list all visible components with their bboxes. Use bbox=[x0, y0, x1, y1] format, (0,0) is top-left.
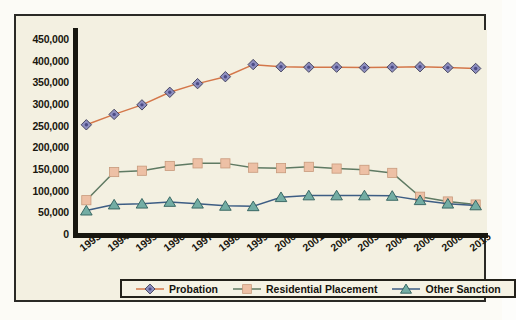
chart-canvas: 450,000400,000350,000300,000250,000200,0… bbox=[16, 16, 484, 300]
triangle-marker bbox=[391, 282, 421, 296]
legend-label: Other Sanction bbox=[425, 283, 500, 295]
chart-frame: 450,000400,000350,000300,000250,000200,0… bbox=[14, 14, 486, 302]
data-point-square bbox=[360, 165, 369, 174]
square-marker bbox=[243, 284, 252, 293]
data-point-square bbox=[249, 163, 258, 172]
legend-label: Probation bbox=[169, 283, 218, 295]
legend-item-probation[interactable]: Probation bbox=[135, 282, 218, 296]
data-point-square bbox=[276, 164, 285, 173]
data-point-square bbox=[110, 167, 119, 176]
diamond-marker bbox=[135, 282, 165, 296]
series-probation bbox=[81, 59, 481, 130]
square-marker bbox=[232, 282, 262, 296]
series-plot bbox=[16, 16, 488, 304]
data-point-square bbox=[221, 159, 230, 168]
data-point-square bbox=[304, 162, 313, 171]
data-point-square bbox=[388, 168, 397, 177]
legend-item-residential-placement[interactable]: Residential Placement bbox=[232, 282, 377, 296]
data-point-square bbox=[82, 196, 91, 205]
data-point-square bbox=[332, 164, 341, 173]
data-point-square bbox=[137, 166, 146, 175]
chart-legend: ProbationResidential PlacementOther Sanc… bbox=[120, 279, 516, 298]
data-point-square bbox=[165, 161, 174, 170]
data-point-square bbox=[193, 159, 202, 168]
legend-item-other-sanction[interactable]: Other Sanction bbox=[391, 282, 500, 296]
legend-label: Residential Placement bbox=[266, 283, 377, 295]
